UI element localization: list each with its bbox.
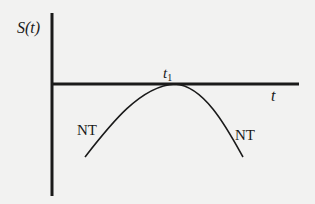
curve-right-label: NT (235, 128, 255, 143)
s-of-t-diagram: S(t) t1 t NT NT (0, 0, 315, 204)
nt-curve (85, 84, 243, 157)
curve-left-label: NT (77, 123, 97, 138)
x-axis-label: t (271, 88, 275, 104)
peak-label: t1 (163, 66, 172, 83)
diagram-canvas (0, 0, 315, 204)
y-axis-label: S(t) (17, 20, 40, 36)
